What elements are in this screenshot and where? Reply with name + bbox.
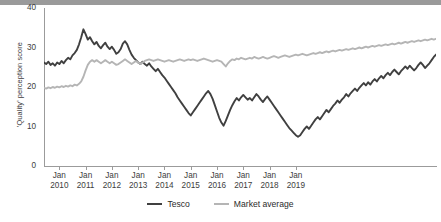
- x-tick-mark: [270, 167, 271, 170]
- x-tick-label: Jan2019: [276, 171, 316, 191]
- x-tick-mark: [191, 167, 192, 170]
- legend-item-market-average: Market average: [214, 199, 294, 209]
- series-lines: [44, 8, 436, 166]
- legend-label: Tesco: [167, 199, 189, 209]
- plot-area: [44, 8, 436, 166]
- legend-line-swatch: [214, 203, 229, 205]
- x-axis-line: [44, 166, 437, 167]
- y-tick-label: 0: [14, 161, 36, 170]
- x-tick-mark: [217, 167, 218, 170]
- quality-perception-chart: 'Quality' perception score 010203040 Jan…: [0, 0, 441, 222]
- x-tick-mark: [243, 167, 244, 170]
- chart-legend: TescoMarket average: [0, 199, 441, 209]
- x-tick-mark: [86, 167, 87, 170]
- x-tick-mark: [59, 167, 60, 170]
- x-tick-mark: [138, 167, 139, 170]
- y-tick-label: 30: [14, 43, 36, 52]
- y-tick-label: 10: [14, 122, 36, 131]
- x-tick-mark: [112, 167, 113, 170]
- top-border-strip: [0, 0, 441, 5]
- legend-label: Market average: [234, 199, 294, 209]
- x-tick-month: Jan: [276, 171, 316, 181]
- legend-item-tesco: Tesco: [147, 199, 189, 209]
- y-tick-label: 20: [14, 82, 36, 91]
- x-tick-mark: [164, 167, 165, 170]
- y-tick-label: 40: [14, 3, 36, 12]
- legend-line-swatch: [147, 203, 162, 205]
- x-tick-year: 2019: [276, 181, 316, 191]
- x-tick-mark: [296, 167, 297, 170]
